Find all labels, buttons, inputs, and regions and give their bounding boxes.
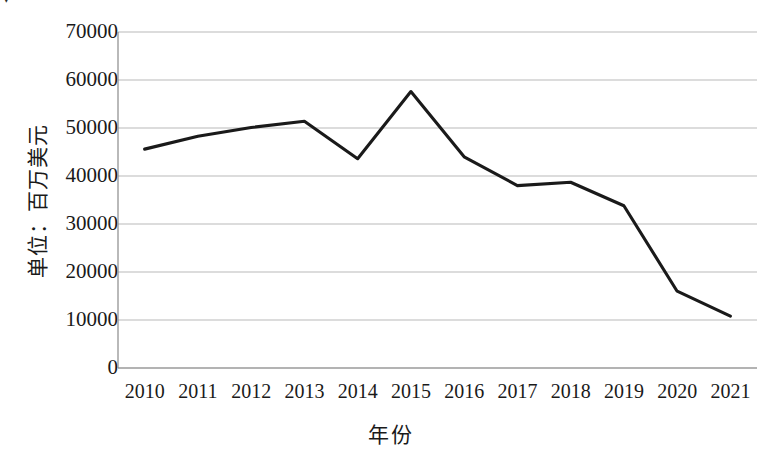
line-chart-figure: ▾ 单位：百万美元 010000200003000040000500006000… bbox=[0, 0, 781, 457]
data-series-line bbox=[145, 92, 731, 317]
axis-frame bbox=[118, 32, 757, 368]
x-axis-tick-label: 2010 bbox=[125, 381, 165, 401]
x-axis-title: 年份 bbox=[0, 418, 781, 448]
x-axis-tick-label: 2014 bbox=[338, 381, 378, 401]
x-axis-tick-label: 2016 bbox=[444, 381, 484, 401]
x-axis-tick-label: 2012 bbox=[231, 381, 271, 401]
x-axis-tick-labels: 2010201120122013201420152016201720182019… bbox=[118, 381, 758, 413]
x-axis-tick-label: 2011 bbox=[178, 381, 217, 401]
x-axis-tick-label: 2015 bbox=[391, 381, 431, 401]
gridlines bbox=[118, 32, 757, 368]
x-axis-tick-label: 2021 bbox=[710, 381, 750, 401]
x-axis-tick-label: 2017 bbox=[497, 381, 537, 401]
x-axis-tick-label: 2019 bbox=[604, 381, 644, 401]
x-axis-tick-label: 2020 bbox=[657, 381, 697, 401]
x-axis-tick-label: 2018 bbox=[551, 381, 591, 401]
x-axis-tick-label: 2013 bbox=[284, 381, 324, 401]
